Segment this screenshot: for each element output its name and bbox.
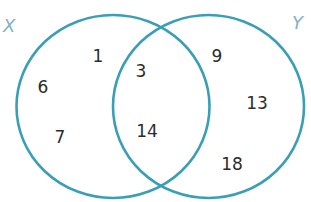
venn-diagram: X Y 1 6 7 3 14 9 13 18 (0, 0, 311, 202)
y-only-element: 18 (221, 156, 243, 173)
set-x-label: X (3, 17, 15, 35)
x-only-element: 7 (55, 129, 66, 146)
y-only-element: 9 (212, 48, 223, 65)
intersection-element: 14 (136, 123, 158, 140)
x-only-element: 1 (93, 48, 104, 65)
intersection-element: 3 (136, 63, 147, 80)
x-only-element: 6 (38, 79, 49, 96)
set-y-label: Y (292, 14, 303, 32)
y-only-element: 13 (246, 95, 268, 112)
